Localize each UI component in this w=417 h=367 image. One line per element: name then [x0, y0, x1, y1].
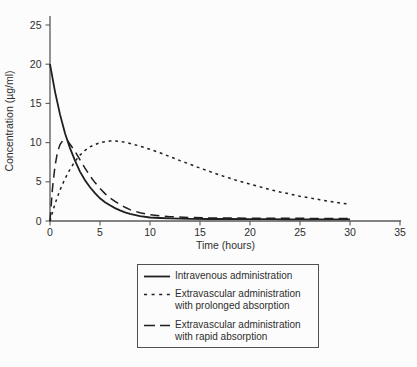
y-axis-label: Concentration (µg/ml) — [3, 70, 15, 171]
legend-item-label-line: Extravascular administration — [175, 288, 301, 300]
chart-svg: 051015202505101520253035 Time (hours) Co… — [0, 0, 417, 260]
legend-solid-line-icon — [144, 270, 170, 282]
x-tick-label: 25 — [294, 226, 306, 238]
y-tick-label: 15 — [30, 97, 42, 109]
y-tick-label: 10 — [30, 136, 42, 148]
legend-item: Extravascular administrationwith prolong… — [144, 288, 314, 312]
legend-item-label-line: Extravascular administration — [175, 319, 301, 331]
x-tick-label: 0 — [47, 226, 53, 238]
series-line-rapid-absorption — [50, 140, 350, 221]
legend-item-label: Intravenous administration — [175, 270, 292, 282]
axes-layer: 051015202505101520253035 — [30, 16, 406, 238]
legend-item-label: Extravascular administrationwith rapid a… — [175, 319, 301, 343]
legend-item-label-line: with rapid absorption — [175, 331, 301, 343]
legend-item-label: Extravascular administrationwith prolong… — [175, 288, 301, 312]
legend-item: Intravenous administration — [144, 270, 314, 282]
legend-dashed-line-icon — [144, 319, 170, 331]
series-line-prolonged-absorption — [50, 141, 350, 221]
x-tick-label: 20 — [244, 226, 256, 238]
x-tick-label: 15 — [194, 226, 206, 238]
x-tick-label: 30 — [344, 226, 356, 238]
legend-box: Intravenous administrationExtravascular … — [137, 264, 319, 348]
y-tick-label: 0 — [36, 215, 42, 227]
legend-item-label-line: Intravenous administration — [175, 270, 292, 282]
y-tick-label: 5 — [36, 175, 42, 187]
x-axis-label: Time (hours) — [196, 239, 255, 251]
legend-item: Extravascular administrationwith rapid a… — [144, 319, 314, 343]
x-tick-label: 10 — [144, 226, 156, 238]
series-line-intravenous — [50, 64, 350, 219]
x-tick-label: 5 — [97, 226, 103, 238]
legend-item-label-line: with prolonged absorption — [175, 300, 301, 312]
legend-dotted-line-icon — [144, 288, 170, 300]
x-tick-label: 35 — [394, 226, 406, 238]
curves-layer — [50, 64, 350, 221]
y-tick-label: 25 — [30, 19, 42, 31]
y-tick-label: 20 — [30, 58, 42, 70]
